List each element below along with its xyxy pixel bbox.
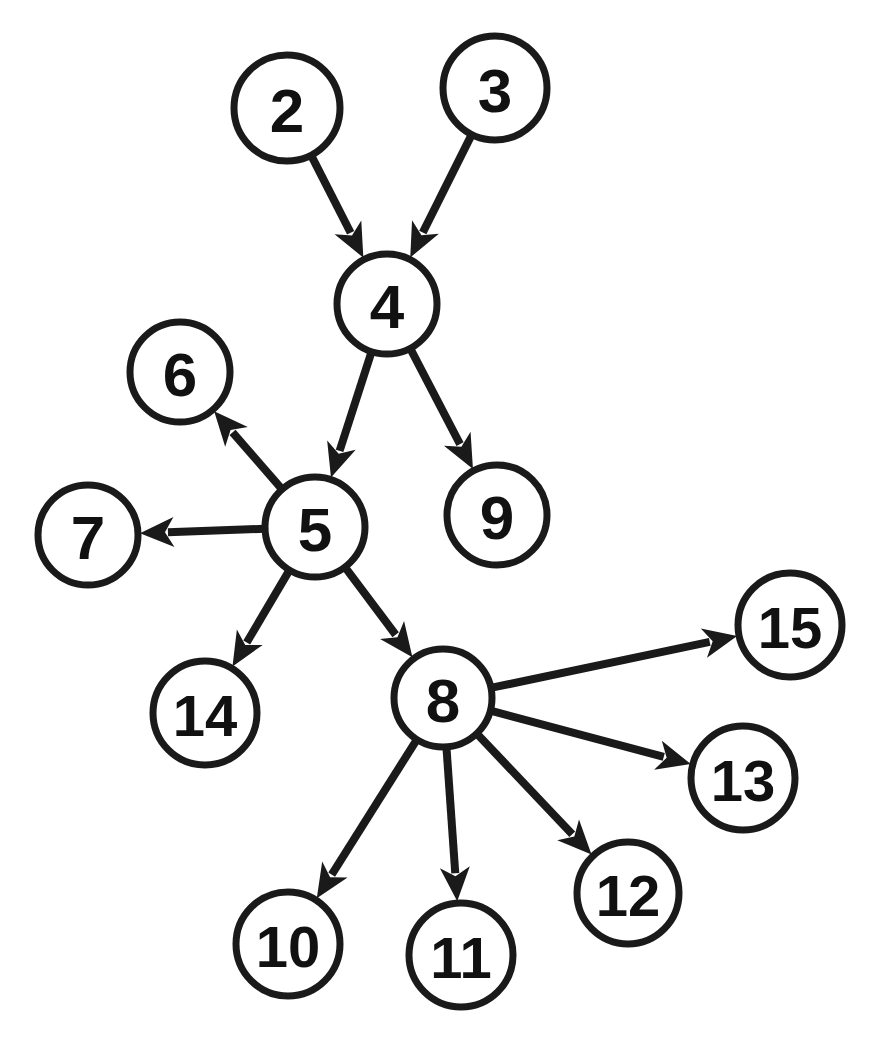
graph-diagram: 23465791581413121011: [0, 0, 882, 1053]
graph-edge-8-to-15: [492, 628, 737, 687]
graph-node-8[interactable]: 8: [394, 649, 492, 747]
node-label: 15: [758, 595, 823, 660]
edge-shaft: [233, 432, 282, 488]
graph-edge-5-to-6: [214, 411, 281, 488]
graph-edge-2-to-4: [312, 156, 364, 258]
node-label: 9: [480, 483, 514, 552]
graph-node-4[interactable]: 4: [337, 254, 437, 354]
node-label: 2: [270, 76, 304, 145]
node-label: 11: [430, 925, 491, 990]
graph-svg-surface: 23465791581413121011: [0, 0, 882, 1053]
graph-edge-8-to-13: [491, 711, 691, 770]
graph-node-2[interactable]: 2: [234, 55, 340, 161]
node-label: 5: [298, 495, 332, 564]
graph-edge-3-to-4: [410, 135, 471, 257]
edge-shaft: [477, 734, 572, 834]
graph-node-14[interactable]: 14: [153, 661, 257, 765]
graph-node-13[interactable]: 13: [691, 726, 795, 830]
graph-node-3[interactable]: 3: [443, 36, 547, 140]
edge-shaft: [492, 642, 710, 688]
graph-node-12[interactable]: 12: [577, 842, 679, 944]
edge-shaft: [446, 748, 455, 873]
graph-edge-4-to-5: [327, 353, 371, 478]
graph-edge-5-to-14: [232, 571, 289, 667]
node-label: 8: [426, 666, 460, 735]
graph-edge-8-to-11: [440, 748, 470, 901]
edge-shaft: [491, 711, 663, 757]
graph-node-6[interactable]: 6: [130, 322, 230, 422]
node-label: 14: [173, 683, 238, 748]
node-label: 12: [596, 863, 661, 928]
graph-edge-8-to-12: [477, 734, 591, 854]
node-label: 3: [478, 56, 512, 125]
node-label: 4: [370, 272, 405, 341]
graph-edge-5-to-7: [140, 517, 264, 547]
edge-shaft: [312, 156, 351, 233]
graph-node-11[interactable]: 11: [409, 903, 513, 1007]
edge-shaft: [168, 529, 264, 532]
graph-node-15[interactable]: 15: [738, 573, 842, 677]
graph-node-7[interactable]: 7: [38, 485, 138, 585]
graph-edge-4-to-9: [411, 349, 473, 469]
edge-layer: [140, 135, 737, 901]
graph-node-10[interactable]: 10: [236, 892, 340, 996]
graph-edge-5-to-8: [346, 568, 413, 657]
edge-shaft: [411, 349, 460, 444]
node-label: 6: [163, 340, 197, 409]
edge-shaft: [340, 353, 372, 451]
edge-shaft: [332, 740, 417, 874]
graph-edge-8-to-10: [317, 740, 417, 898]
graph-node-5[interactable]: 5: [265, 477, 365, 577]
node-label: 10: [256, 914, 321, 979]
edge-shaft: [346, 568, 396, 635]
node-layer: 23465791581413121011: [38, 36, 842, 1007]
edge-shaft: [423, 135, 472, 232]
graph-node-9[interactable]: 9: [447, 465, 547, 565]
edge-shaft: [247, 571, 289, 643]
node-label: 13: [711, 748, 776, 813]
node-label: 7: [71, 503, 105, 572]
